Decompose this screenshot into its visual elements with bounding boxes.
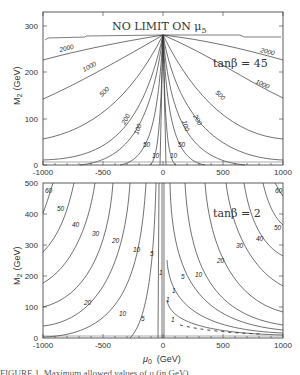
- top-contour-label: 1000: [81, 60, 97, 73]
- top-contour-label: 2000: [58, 43, 75, 54]
- bottom-contour-label: 5: [150, 250, 154, 257]
- bottom-contour-label: 1: [159, 269, 163, 276]
- top-contour-label: 100: [181, 119, 191, 132]
- bottom-x-tick-m1000: -1000: [33, 341, 54, 350]
- top-y-tick-100: 100: [25, 115, 39, 124]
- bottom-contour-label: 40: [72, 221, 80, 228]
- bottom-y-tick-500: 500: [25, 179, 39, 188]
- bottom-contour-label: 60: [45, 187, 53, 194]
- bottom-contour-label: 30: [92, 230, 100, 237]
- bottom-contour-label: 20: [83, 299, 92, 306]
- top-contour-label: 500: [214, 89, 227, 102]
- top-x-tick-0: 0: [161, 168, 166, 177]
- bottom-y-tick-200: 200: [25, 272, 39, 281]
- top-x-tick-1000: 1000: [274, 168, 292, 177]
- bottom-y-tick-100: 100: [25, 303, 39, 312]
- bottom-contour-label: 50: [274, 224, 282, 231]
- top-contour-label: 10: [170, 152, 178, 159]
- top-contour-label: 200: [119, 112, 131, 126]
- bottom-contour-label: 10: [195, 271, 203, 278]
- x-axis-label: μ0(GeV): [142, 354, 181, 365]
- bottom-y-tick-300: 300: [25, 241, 39, 250]
- bottom-panel: 0 100 200 300 400 500 -1000 -500 0 500 1…: [12, 179, 292, 365]
- top-y-tick-300: 300: [25, 22, 39, 31]
- top-x-tick-m1000: -1000: [33, 168, 54, 177]
- top-contour-label: 2000: [259, 46, 276, 57]
- figure-caption: FIGURE 1. Maximum allowed values of μ (i…: [0, 366, 300, 375]
- top-contour-label: 500: [98, 85, 111, 98]
- bottom-tanb-label: tanβ = 2: [213, 207, 261, 220]
- top-contour-label: 50: [178, 141, 186, 148]
- top-y-axis-label: M2(GeV): [12, 67, 23, 105]
- bottom-contour-label: 1: [166, 296, 170, 303]
- top-x-tick-500: 500: [216, 168, 230, 177]
- top-tanb-label: tanβ = 45: [213, 57, 268, 70]
- bottom-contour-label: 1: [172, 287, 176, 294]
- chart-figure: 0 100 200 300 -1000 -500 0 500 1000: [0, 0, 300, 375]
- bottom-ticks: [43, 214, 283, 338]
- top-contour-label: 1000: [255, 78, 271, 91]
- bottom-contour-label: 50: [57, 205, 65, 212]
- bottom-x-tick-500: 500: [216, 341, 230, 350]
- top-y-tick-200: 200: [25, 68, 39, 77]
- top-panel: 0 100 200 300 -1000 -500 0 500 1000: [12, 12, 292, 177]
- bottom-contour-label: 20: [111, 237, 120, 244]
- bottom-x-tick-1000: 1000: [274, 341, 292, 350]
- bottom-contour-label: 10: [133, 246, 141, 253]
- bottom-contour-label: 1: [171, 316, 175, 323]
- top-contour-label: 50: [143, 141, 151, 148]
- top-annotation-no-limit: NO LIMIT ON μ5: [112, 20, 207, 35]
- bottom-contour-label: 10: [119, 310, 127, 317]
- top-contour-label: 100: [132, 122, 142, 135]
- bottom-contour-label: 60: [275, 187, 283, 194]
- bottom-x-tick-m500: -500: [95, 341, 112, 350]
- top-contours: [43, 35, 283, 165]
- top-contour-label: 10: [152, 152, 160, 159]
- bottom-y-axis-label: M2(GeV): [12, 247, 23, 285]
- bottom-x-tick-0: 0: [161, 341, 166, 350]
- bottom-contour-label: 30: [236, 242, 244, 249]
- bottom-contour-label: 20: [216, 257, 225, 264]
- bottom-contour-label: 5: [141, 315, 145, 322]
- bottom-contour-label: 40: [256, 235, 264, 242]
- top-x-tick-m500: -500: [95, 168, 112, 177]
- bottom-contour-label: 5: [181, 273, 185, 280]
- bottom-y-tick-400: 400: [25, 210, 39, 219]
